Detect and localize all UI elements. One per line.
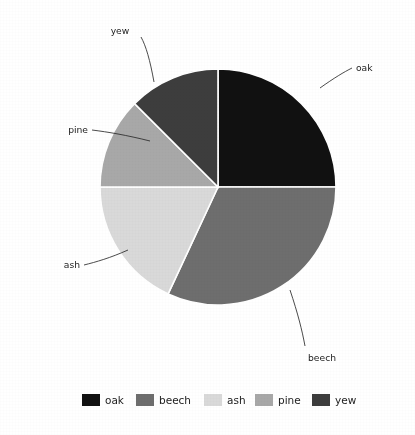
legend-item-pine[interactable]: pine — [255, 394, 301, 406]
pie-slice-oak[interactable] — [218, 69, 336, 187]
legend-label-oak: oak — [105, 394, 125, 406]
legend-item-ash[interactable]: ash — [204, 394, 246, 406]
legend-label-yew: yew — [335, 394, 357, 406]
legend-item-beech[interactable]: beech — [136, 394, 191, 406]
callout-label-yew: yew — [111, 25, 130, 36]
leader-line-beech — [290, 290, 305, 346]
callout-label-ash: ash — [64, 259, 80, 270]
leader-line-oak — [320, 68, 352, 88]
callout-label-oak: oak — [356, 62, 373, 73]
chart-canvas: yew oak pine ash beech oak beech ash — [0, 0, 415, 435]
legend-swatch-pine — [255, 394, 273, 406]
legend-label-ash: ash — [227, 394, 246, 406]
legend-label-pine: pine — [278, 394, 301, 406]
legend-label-beech: beech — [159, 394, 191, 406]
legend-item-oak[interactable]: oak — [82, 394, 125, 406]
pie-chart-figure: yew oak pine ash beech oak beech ash — [0, 0, 415, 435]
legend: oak beech ash pine yew — [82, 394, 357, 406]
legend-item-yew[interactable]: yew — [312, 394, 357, 406]
legend-swatch-oak — [82, 394, 100, 406]
legend-swatch-ash — [204, 394, 222, 406]
legend-swatch-beech — [136, 394, 154, 406]
callout-label-beech: beech — [308, 352, 336, 363]
leader-line-yew — [141, 37, 154, 82]
legend-swatch-yew — [312, 394, 330, 406]
callout-label-pine: pine — [68, 124, 88, 135]
